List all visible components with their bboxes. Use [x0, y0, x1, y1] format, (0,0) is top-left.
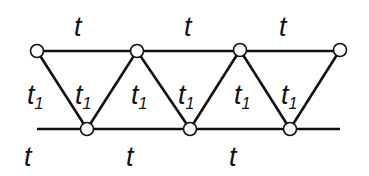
top-hopping-label: t [279, 12, 288, 42]
diagonal-hopping-label: t1 [75, 80, 91, 112]
bottom-site-node [81, 123, 94, 136]
top-site-node [31, 45, 44, 58]
diagonal-bond [190, 50, 240, 129]
lattice-diagram: ttttttt1t1t1t1t1t1 [0, 0, 369, 176]
top-hopping-label: t [74, 12, 83, 42]
diagonal-hopping-label: t1 [131, 80, 147, 112]
bottom-hopping-label: t [126, 142, 135, 172]
bottom-site-node [184, 123, 197, 136]
diagonal-bond [87, 51, 137, 129]
top-hopping-label: t [184, 12, 193, 42]
diagonal-hopping-label: t1 [178, 80, 194, 112]
diagonal-hopping-label: t1 [281, 80, 297, 112]
top-site-node [131, 45, 144, 58]
top-site-node [334, 44, 347, 57]
diagonal-hopping-label: t1 [27, 80, 43, 112]
diagonal-hopping-label: t1 [234, 80, 250, 112]
bottom-site-node [284, 123, 297, 136]
top-site-node [234, 44, 247, 57]
bottom-hopping-label: t [24, 142, 33, 172]
diagonal-bond [290, 50, 340, 129]
bottom-hopping-label: t [229, 142, 238, 172]
hopping-labels: ttttttt1t1t1t1t1t1 [24, 12, 297, 172]
